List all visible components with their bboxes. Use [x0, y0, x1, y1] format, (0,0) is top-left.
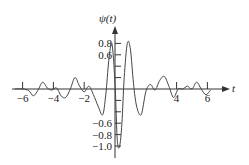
y-tick-label: −1.0 [92, 140, 112, 152]
y-tick-label: −0.6 [92, 117, 112, 129]
y-tick-label: −0.8 [92, 129, 112, 141]
x-tick-label: 4 [174, 92, 180, 104]
x-axis-arrow-icon [222, 86, 230, 92]
wavelet-curve [15, 41, 211, 148]
x-tick-label: −6 [17, 92, 29, 104]
x-tick-label: −4 [48, 92, 60, 104]
y-axis-label: ψ(t) [99, 12, 117, 25]
wavelet-chart: −6−4−246 0.80.6−0.6−0.8−1.0 ψ(t) t [0, 0, 249, 165]
x-tick-label: −2 [78, 92, 90, 104]
y-axis-arrow-icon [112, 26, 118, 34]
x-axis-label: t [232, 82, 236, 94]
